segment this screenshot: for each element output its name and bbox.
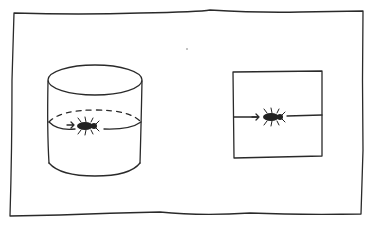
sketch-canvas	[0, 0, 372, 226]
insect-icon	[77, 117, 99, 135]
square-outline	[233, 71, 322, 158]
stray-mark	[186, 48, 188, 50]
cylinder-top	[48, 65, 142, 95]
square-line-right	[287, 115, 322, 116]
flat-square	[233, 71, 322, 158]
direction-arrow	[67, 122, 74, 128]
direction-arrow	[252, 114, 259, 120]
cylinder	[48, 65, 142, 176]
insect-icon	[263, 108, 285, 126]
band-front-right	[104, 122, 141, 129]
outer-frame	[10, 10, 363, 216]
cylinder-bottom-front	[49, 163, 140, 176]
band-back-dashed	[49, 110, 141, 122]
